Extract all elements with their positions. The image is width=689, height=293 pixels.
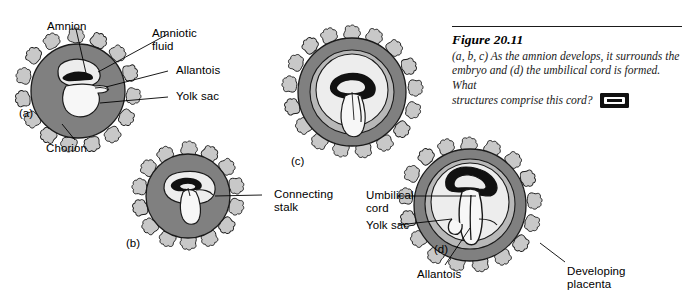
label-developing-placenta-line2: placenta (567, 278, 611, 292)
figure-caption-text: (a, b, c) As the amnion develops, it sur… (452, 50, 682, 109)
label-umbilical-cord-line2: cord (366, 202, 389, 216)
label-yolk-sac-a: Yolk sac (176, 90, 219, 104)
label-connecting-stalk-line1: Connecting (274, 188, 333, 202)
panel-tag-a: (a) (19, 107, 33, 119)
panel-a-illustration (13, 28, 141, 155)
caption-divider (452, 26, 682, 27)
panel-tag-c: (c) (291, 155, 304, 167)
videocassette-icon (600, 93, 629, 108)
caption-line-2: embryo and (d) the umbilical cord is for… (452, 64, 660, 91)
caption-line-1: (a, b, c) As the amnion develops, it sur… (452, 50, 679, 63)
label-amnion: Amnion (47, 20, 87, 34)
label-allantois-d: Allantois (417, 268, 461, 282)
figure-20-11: Amnion Amniotic fluid Allantois Yolk sac… (0, 0, 689, 293)
panel-c-illustration (281, 24, 425, 160)
panel-b-illustration (129, 141, 246, 252)
label-allantois-a: Allantois (176, 64, 220, 78)
label-umbilical-cord-line1: Umbilical (366, 189, 414, 203)
caption-line-3: structures comprise this cord? (452, 94, 593, 107)
label-yolk-sac-d: Yolk sac (366, 219, 409, 233)
panel-tag-b: (b) (126, 237, 140, 249)
label-connecting-stalk-line2: stalk (274, 201, 298, 215)
figure-number-title: Figure 20.11 (452, 32, 682, 47)
label-developing-placenta-line1: Developing (567, 265, 626, 279)
label-amniotic-fluid-line1: Amniotic (152, 27, 197, 41)
label-amniotic-fluid-line2: fluid (152, 40, 174, 54)
panel-b-yolk-sac (180, 190, 200, 225)
panel-tag-d: (d) (434, 243, 448, 255)
figure-caption-block: Figure 20.11 (a, b, c) As the amnion dev… (452, 26, 682, 109)
panel-d-illustration (397, 135, 544, 274)
label-chorion: Chorion (46, 142, 87, 156)
